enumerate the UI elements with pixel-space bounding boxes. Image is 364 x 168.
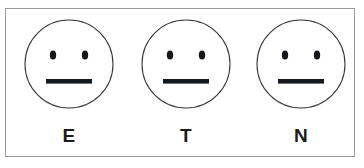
face-label-1: E: [19, 125, 119, 147]
mouth-bar-icon: [163, 79, 209, 84]
right-eye-icon: [199, 50, 205, 59]
mouth-bar-icon: [278, 79, 324, 84]
neutral-face-icon: [141, 19, 231, 109]
face-item-3: N: [251, 13, 351, 155]
face-outline-circle: [25, 20, 113, 108]
face-outline-circle: [142, 20, 230, 108]
face-item-2: T: [136, 13, 236, 155]
neutral-face-icon: [256, 19, 346, 109]
left-eye-icon: [50, 50, 56, 59]
left-eye-icon: [282, 50, 288, 59]
figure-frame-border: E T N: [5, 8, 355, 157]
face-label-3: N: [251, 125, 351, 147]
mouth-bar-icon: [46, 79, 92, 84]
face-row: E T N: [6, 9, 356, 158]
right-eye-icon: [82, 50, 88, 59]
face-outline-circle: [257, 20, 345, 108]
face-item-1: E: [19, 13, 119, 155]
face-label-2: T: [136, 125, 236, 147]
left-eye-icon: [167, 50, 173, 59]
figure-root: E T N: [0, 0, 364, 168]
neutral-face-icon: [24, 19, 114, 109]
right-eye-icon: [314, 50, 320, 59]
